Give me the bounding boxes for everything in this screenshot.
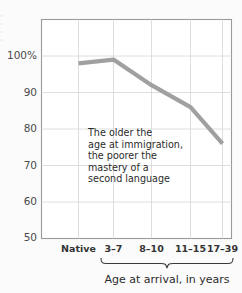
xtick-label-3-7: 3–7 [105, 243, 123, 254]
ytick-label: 100% [7, 49, 37, 61]
line-chart-svg: 100% 90 80 70 60 50 Native 3–7 8–10 11–1… [0, 0, 242, 293]
annotation-line: second language [88, 173, 170, 184]
x-axis-title: Age at arrival, in years [104, 273, 229, 286]
annotation-line: mastery of a [88, 162, 149, 173]
annotation-line: age at immigration, [88, 139, 183, 150]
annotation-line: The older the [87, 127, 152, 138]
xtick-label-native: Native [61, 243, 96, 254]
ytick-label: 70 [24, 159, 37, 171]
ytick-label: 90 [24, 86, 37, 98]
annotation-line: the poorer the [88, 150, 157, 161]
chart-figure: 100% 90 80 70 60 50 Native 3–7 8–10 11–1… [0, 0, 242, 293]
xtick-label-8-10: 8–10 [139, 243, 164, 254]
ytick-label: 60 [24, 195, 37, 207]
x-axis-tick-labels: Native 3–7 8–10 11–15 17–39 [61, 243, 238, 254]
xtick-label-17-39: 17–39 [207, 243, 238, 254]
ytick-label: 80 [24, 122, 37, 134]
ytick-label: 50 [24, 231, 37, 243]
xtick-label-11-15: 11–15 [175, 243, 206, 254]
